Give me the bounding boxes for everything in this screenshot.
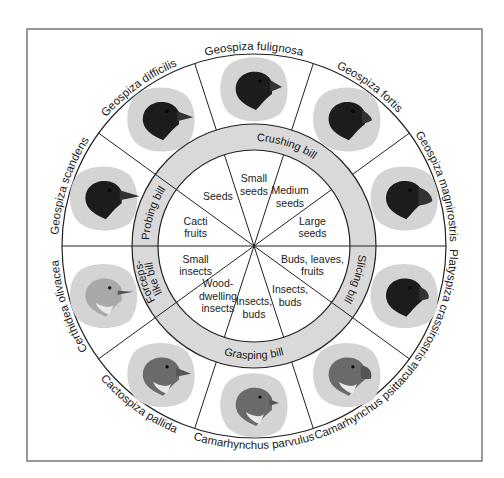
bird-eye-icon <box>409 189 412 192</box>
diet-label-3: Seeds <box>203 190 233 202</box>
bird-head-6 <box>220 373 287 437</box>
bird-eye-icon <box>108 286 111 289</box>
bird-head-4 <box>70 264 137 328</box>
bird-head-7 <box>313 343 380 407</box>
diet-label-2: Smallseeds <box>240 172 268 197</box>
bird-head-3 <box>70 166 140 230</box>
bird-eye-icon <box>108 189 111 192</box>
bird-head-8 <box>371 264 438 328</box>
bird-eye-icon <box>351 365 354 368</box>
bird-eye-icon <box>258 79 261 82</box>
bird-head-0 <box>313 87 380 151</box>
bird-head-9 <box>371 166 438 230</box>
diet-label-5: Smallinsects <box>179 253 212 278</box>
diet-label-6: Wood-dwellinginsects <box>199 277 237 314</box>
darwin-finches-diagram: Geospiza fortisGeospiza fulignosaGeospiz… <box>0 0 504 478</box>
bird-head-2 <box>127 87 194 151</box>
bird-eye-icon <box>166 365 169 368</box>
bird-head-5 <box>127 343 194 407</box>
bird-eye-icon <box>166 110 169 113</box>
diet-label-4: Cactifruits <box>184 215 208 240</box>
bird-eye-icon <box>258 395 261 398</box>
diet-label-0: Largeseeds <box>298 215 326 240</box>
bird-eye-icon <box>351 110 354 113</box>
bird-eye-icon <box>409 286 412 289</box>
bird-head-1 <box>220 57 287 121</box>
diet-label-1: Mediumseeds <box>271 184 309 209</box>
